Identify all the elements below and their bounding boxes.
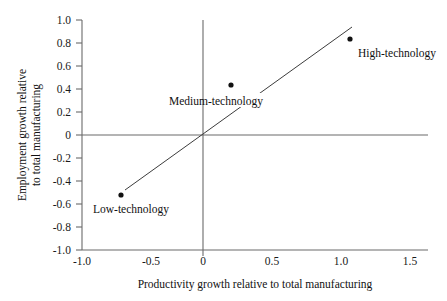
y-tick-label: 0.4	[57, 83, 72, 95]
y-axis-tick-labels: 1.0 0.8 0.6 0.4 0.2 0 -0.2 -0.4 -0.6 -0.…	[53, 14, 71, 256]
data-point-labels: High-technology Medium-technology Low-te…	[93, 47, 436, 216]
point-label-medium-technology: Medium-technology	[169, 95, 263, 108]
y-tick-label: -0.4	[53, 175, 71, 187]
y-axis-title-line2: to total manufacturing	[30, 84, 43, 186]
x-tick-label: -0.5	[142, 255, 160, 267]
scatter-chart-figure: 1.0 0.8 0.6 0.4 0.2 0 -0.2 -0.4 -0.6 -0.…	[0, 0, 447, 301]
y-axis-title-line1: Employment growth relative	[16, 69, 29, 201]
trend-line-group	[125, 27, 352, 190]
y-tick-label: -0.6	[53, 198, 71, 210]
x-tick-label: -1.0	[73, 255, 91, 267]
y-tick-label: 0.6	[57, 60, 72, 72]
chart-canvas: 1.0 0.8 0.6 0.4 0.2 0 -0.2 -0.4 -0.6 -0.…	[0, 0, 447, 301]
data-point-high-technology	[347, 36, 352, 41]
data-point-medium-technology	[228, 82, 233, 87]
y-tick-label: 0.2	[57, 106, 72, 118]
point-label-low-technology: Low-technology	[93, 203, 169, 216]
x-tick-label: 1.5	[403, 255, 418, 267]
y-tick-label: 1.0	[57, 14, 72, 26]
y-tick-label: -0.2	[53, 152, 71, 164]
y-axis-ticks	[76, 20, 82, 250]
regression-trend-line	[125, 27, 352, 190]
y-tick-label: 0.8	[57, 37, 72, 49]
y-tick-label: 0	[65, 129, 71, 141]
x-tick-label: 1.0	[334, 255, 349, 267]
x-tick-label: 0.5	[265, 255, 280, 267]
data-points-group	[118, 36, 352, 197]
x-axis-tick-labels: -1.0 -0.5 0 0.5 1.0 1.5	[73, 255, 418, 267]
point-label-high-technology: High-technology	[358, 47, 436, 60]
y-tick-label: -0.8	[53, 221, 71, 233]
x-tick-label: 0	[200, 255, 206, 267]
data-point-low-technology	[118, 192, 123, 197]
x-axis-title: Productivity growth relative to total ma…	[138, 278, 373, 291]
y-tick-label: -1.0	[53, 244, 71, 256]
